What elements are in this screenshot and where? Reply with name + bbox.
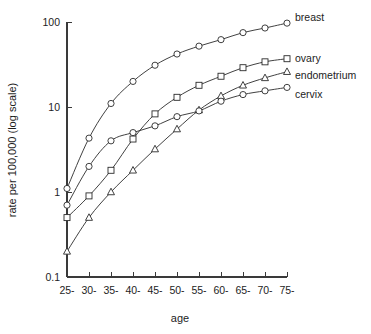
data-point-ovary-40-: [130, 136, 136, 142]
series-cervix: [64, 84, 290, 208]
series-label-ovary: ovary: [295, 52, 321, 64]
data-point-breast-70-: [262, 25, 268, 31]
x-tick-label-75-: 75-: [279, 284, 295, 296]
x-tick-label-35-: 35-: [103, 284, 119, 296]
y-axis-title: rate per 100,000 (log scale): [6, 83, 18, 218]
data-point-breast-30-: [86, 135, 92, 141]
data-point-ovary-60-: [218, 73, 224, 79]
data-point-cervix-40-: [130, 129, 136, 135]
data-point-ovary-50-: [174, 94, 180, 100]
x-axis-title: age: [171, 312, 189, 324]
data-point-ovary-35-: [108, 167, 114, 173]
data-point-breast-65-: [240, 30, 246, 36]
x-tick-label-25-: 25-: [59, 284, 75, 296]
data-series-group: [64, 20, 291, 254]
data-point-ovary-25-: [64, 215, 70, 221]
data-point-cervix-65-: [240, 91, 246, 97]
data-point-cervix-35-: [108, 138, 114, 144]
x-tick-label-30-: 30-: [81, 284, 97, 296]
data-point-ovary-45-: [152, 111, 158, 117]
series-breast: [64, 20, 290, 192]
series-label-endometrium: endometrium: [295, 69, 357, 81]
data-point-breast-40-: [130, 78, 136, 84]
data-point-breast-25-: [64, 185, 70, 191]
x-tick-label-40-: 40-: [125, 284, 141, 296]
data-point-cervix-70-: [262, 88, 268, 94]
data-point-cervix-25-: [64, 202, 70, 208]
y-tick-label-10: 10: [48, 101, 60, 113]
data-point-ovary-55-: [196, 82, 202, 88]
data-point-ovary-65-: [240, 65, 246, 71]
data-point-cervix-30-: [86, 163, 92, 169]
x-tick-label-55-: 55-: [191, 284, 207, 296]
x-tick-label-65-: 65-: [235, 284, 251, 296]
data-point-ovary-75-: [284, 56, 290, 62]
line-chart-canvas: 1001010.1 25-30-35-40-45-50-55-60-65-70-…: [0, 0, 371, 334]
data-point-cervix-45-: [152, 123, 158, 129]
data-point-endometrium-75-: [284, 68, 291, 75]
x-tick-label-45-: 45-: [147, 284, 163, 296]
data-point-cervix-55-: [196, 108, 202, 114]
x-tick-labels: 25-30-35-40-45-50-55-60-65-70-75-: [59, 284, 295, 296]
series-line-ovary: [67, 59, 287, 218]
series-label-breast: breast: [295, 11, 324, 23]
data-point-ovary-30-: [86, 193, 92, 199]
data-point-endometrium-25-: [64, 248, 71, 255]
data-point-cervix-75-: [284, 84, 290, 90]
data-point-breast-55-: [196, 43, 202, 49]
chart-figure: 1001010.1 25-30-35-40-45-50-55-60-65-70-…: [0, 0, 371, 334]
series-line-breast: [67, 23, 287, 188]
data-point-breast-75-: [284, 20, 290, 26]
data-point-breast-60-: [218, 37, 224, 43]
data-point-endometrium-50-: [174, 125, 181, 132]
series-label-cervix: cervix: [295, 88, 323, 100]
y-tick-label-0.1: 0.1: [45, 271, 60, 283]
data-point-breast-50-: [174, 51, 180, 57]
y-axis: [67, 22, 72, 277]
series-line-cervix: [67, 87, 287, 205]
x-axis: [67, 272, 287, 277]
data-point-breast-35-: [108, 100, 114, 106]
series-end-labels: breastovaryendometriumcervix: [295, 11, 357, 100]
x-tick-label-60-: 60-: [213, 284, 229, 296]
y-tick-label-1: 1: [54, 186, 60, 198]
y-tick-labels: 1001010.1: [42, 16, 60, 283]
x-tick-label-70-: 70-: [257, 284, 273, 296]
data-point-cervix-50-: [174, 114, 180, 120]
data-point-breast-45-: [152, 62, 158, 68]
data-point-cervix-60-: [218, 98, 224, 104]
data-point-ovary-70-: [262, 59, 268, 65]
y-tick-label-100: 100: [42, 16, 60, 28]
x-tick-label-50-: 50-: [169, 284, 185, 296]
